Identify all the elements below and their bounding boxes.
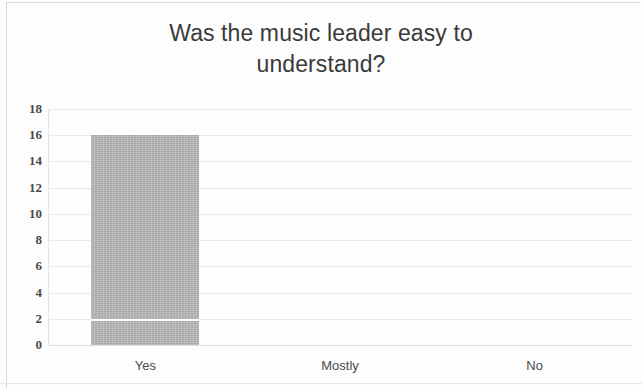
y-tick-label-8: 8 (10, 232, 42, 248)
scan-streak (91, 319, 199, 321)
y-tick-label-12: 12 (10, 180, 42, 196)
bar-slot-mostly (243, 109, 438, 345)
x-tick-label-no: No (437, 358, 632, 380)
x-axis: YesMostlyNo (48, 358, 632, 380)
bars-layer (48, 109, 632, 345)
y-tick-label-16: 16 (10, 127, 42, 143)
x-tick-label-mostly: Mostly (243, 358, 438, 380)
y-tick-label-4: 4 (10, 285, 42, 301)
y-tick-label-18: 18 (10, 101, 42, 117)
page-border-left (6, 2, 7, 388)
plot-area (48, 109, 632, 345)
x-tick-label-yes: Yes (48, 358, 243, 380)
bar-slot-no (437, 109, 632, 345)
y-axis: 181614121086420 (10, 109, 42, 345)
y-tick-label-6: 6 (10, 258, 42, 274)
bar-yes[interactable] (91, 135, 199, 345)
y-tick-label-2: 2 (10, 311, 42, 327)
chart-title: Was the music leader easy to understand? (60, 18, 582, 80)
page-border-top (6, 2, 640, 3)
y-tick-label-14: 14 (10, 153, 42, 169)
page-border-bottom (0, 383, 642, 384)
y-tick-label-10: 10 (10, 206, 42, 222)
chart-page: Was the music leader easy to understand?… (0, 0, 642, 390)
y-tick-label-0: 0 (10, 337, 42, 353)
bar-slot-yes (48, 109, 243, 345)
gridline-0 (48, 345, 632, 346)
